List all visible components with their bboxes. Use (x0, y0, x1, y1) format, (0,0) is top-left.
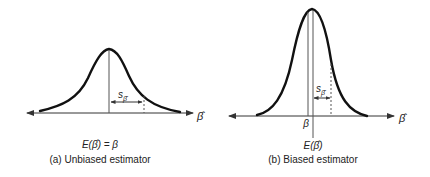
axis-label-b: β̂ (398, 112, 407, 124)
caption-a: (a) Unbiased estimator (49, 154, 151, 165)
sampling-distribution-diagram: sβ̂ β̂ E(β̂) = β (a) Unbiased estimator … (0, 0, 430, 177)
true-param-label-b: β (302, 118, 309, 129)
se-label-b: sβ̂ (316, 83, 327, 97)
density-curve-b (257, 9, 367, 116)
caption-b: (b) Biased estimator (268, 154, 358, 165)
panel-unbiased: sβ̂ β̂ E(β̂) = β (a) Unbiased estimator (27, 49, 205, 165)
axis-label-a: β̂ (196, 110, 205, 122)
density-curve-a (40, 49, 180, 112)
panel-biased: sβ̂ β̂ β E(β̂) (b) Biased estimator (229, 9, 407, 165)
expectation-label-b: E(β̂) (303, 140, 322, 151)
expectation-label-a: E(β̂) = β (82, 139, 118, 150)
se-label-a: sβ̂ (118, 89, 129, 103)
